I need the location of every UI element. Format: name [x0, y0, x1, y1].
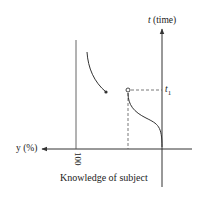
t-axis-unit: (time) [153, 15, 176, 25]
y-axis-unit: (%) [23, 143, 37, 153]
t-axis-label: t (time) [148, 16, 176, 26]
diagram-canvas [0, 0, 203, 198]
t-axis-var: t [148, 15, 151, 25]
filled-dot-marker [104, 90, 107, 93]
knowledge-time-diagram: t (time) y (%) t1 100 Knowledge of subje… [0, 0, 203, 198]
decay-curve-after-t1 [87, 52, 106, 92]
s-curve-before-t1 [128, 93, 162, 147]
t1-subscript: 1 [168, 89, 172, 97]
t1-label: t1 [165, 85, 171, 97]
hundred-percent-label: 100 [73, 152, 82, 166]
y-axis-var: y [16, 143, 21, 153]
open-circle-marker [126, 88, 130, 92]
diagram-caption: Knowledge of subject [60, 173, 148, 183]
y-axis-label: y (%) [16, 144, 37, 154]
